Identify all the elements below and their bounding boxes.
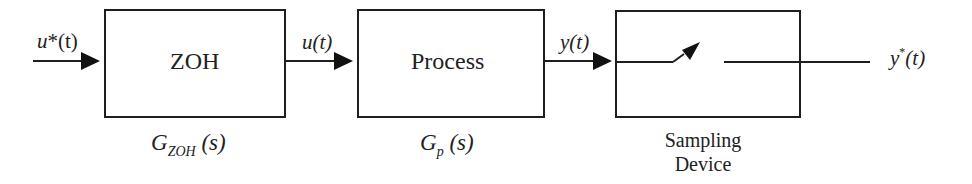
- sampler-caption: Sampling Device: [648, 128, 758, 176]
- zoh-label: ZOH: [170, 48, 219, 75]
- arrowhead-icon: [593, 52, 612, 70]
- output-signal-label: y*(t): [890, 46, 925, 71]
- switch-arm: [673, 54, 684, 62]
- sampler-block: [616, 11, 800, 117]
- switch-arrow-icon: [682, 42, 700, 60]
- process-output-signal-label: y(t): [560, 30, 589, 55]
- block-diagram-canvas: [0, 0, 972, 184]
- zoh-transfer-function: GZOH (s): [151, 130, 226, 156]
- zoh-output-signal-label: u(t): [302, 30, 332, 55]
- process-transfer-function: Gp (s): [420, 130, 474, 156]
- input-signal-label: u*(t): [37, 29, 78, 54]
- arrowhead-icon: [334, 52, 353, 70]
- process-label: Process: [411, 48, 484, 75]
- arrowhead-icon: [81, 52, 100, 70]
